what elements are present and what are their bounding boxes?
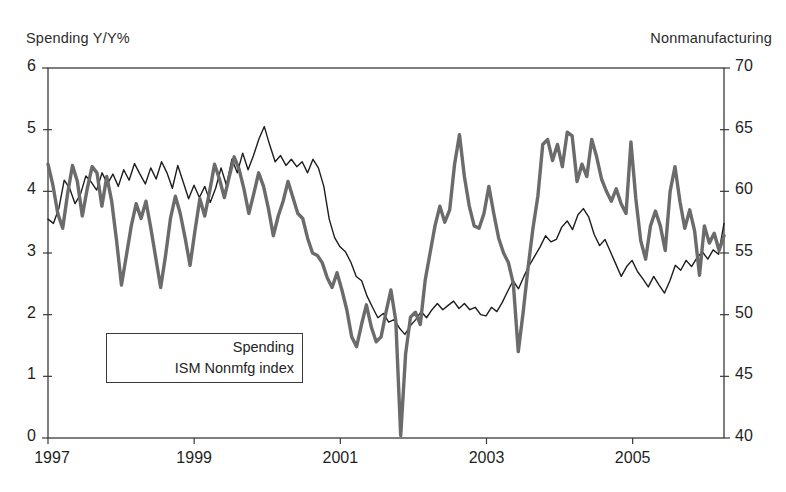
series-line-ism-nonmfg-index — [48, 132, 724, 435]
legend-entry-ism-nonmfg-index: ISM Nonmfg index — [107, 360, 294, 376]
left-y-tick-label: 4 — [8, 180, 36, 198]
x-tick-label: 2001 — [310, 449, 370, 467]
right-y-tick-label: 60 — [735, 180, 771, 198]
left-y-tick-label: 2 — [8, 304, 36, 322]
left-y-tick-label: 6 — [8, 57, 36, 75]
left-y-tick-label: 3 — [8, 242, 36, 260]
left-y-tick-label: 0 — [8, 427, 36, 445]
x-tick-label: 1999 — [164, 449, 224, 467]
left-y-tick-label: 5 — [8, 119, 36, 137]
right-y-tick-label: 40 — [735, 427, 771, 445]
legend: Spending ISM Nonmfg index — [106, 333, 303, 383]
right-y-tick-label: 45 — [735, 365, 771, 383]
series-line-spending — [48, 127, 724, 335]
x-tick-label: 2003 — [456, 449, 516, 467]
left-y-tick-label: 1 — [8, 365, 36, 383]
chart-figure: Spending Y/Y% Nonmanufacturing 012345640… — [0, 0, 786, 492]
x-tick-label: 1997 — [22, 449, 82, 467]
right-y-tick-label: 50 — [735, 304, 771, 322]
right-y-tick-label: 65 — [735, 119, 771, 137]
axis-ticks — [42, 68, 730, 444]
right-y-tick-label: 55 — [735, 242, 771, 260]
right-y-tick-label: 70 — [735, 57, 771, 75]
plot-area — [0, 0, 786, 492]
x-tick-label: 2005 — [603, 449, 663, 467]
data-series-lines — [48, 127, 724, 436]
legend-entry-spending: Spending — [107, 339, 294, 355]
